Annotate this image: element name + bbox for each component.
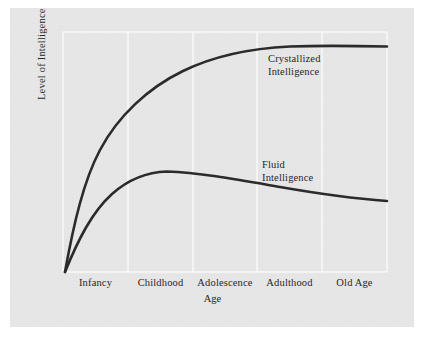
series-curve-fluid	[65, 172, 387, 273]
series-annotation-fluid: Fluid Intelligence	[262, 158, 313, 184]
x-tick-label-childhood: Childhood	[128, 277, 193, 288]
x-tick-label-adulthood: Adulthood	[257, 277, 322, 288]
series-annotation-crystallized-line1: Crystallized	[268, 52, 321, 65]
series-annotation-crystallized-line2: Intelligence	[268, 65, 321, 78]
x-tick-label-old-age: Old Age	[322, 277, 387, 288]
x-tick-label-adolescence: Adolescence	[193, 277, 257, 288]
y-axis-title: Level of Intelligence	[36, 8, 47, 100]
series-annotation-fluid-line2: Intelligence	[262, 171, 313, 184]
chart-figure: Infancy Childhood Adolescence Adulthood …	[0, 0, 425, 341]
series-curve-crystallized	[65, 46, 387, 272]
plot-gridlines	[63, 32, 387, 272]
series-annotation-crystallized: Crystallized Intelligence	[268, 52, 321, 78]
x-axis-title: Age	[0, 293, 425, 304]
series-annotation-fluid-line1: Fluid	[262, 158, 313, 171]
chart-plot-svg	[0, 0, 425, 341]
x-tick-label-infancy: Infancy	[63, 277, 128, 288]
